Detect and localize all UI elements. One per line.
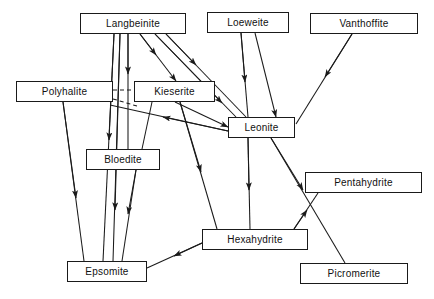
- edge-loeweite-leonite-b: [255, 33, 276, 117]
- node-bloedite[interactable]: Bloedite: [86, 149, 160, 170]
- edge-langbeinite-epsomite-b-head: [115, 34, 120, 210]
- node-label: Polyhalite: [42, 86, 87, 97]
- edge-kieserite-leonite: [175, 102, 228, 127]
- edge-leonite-picromerite-head: [271, 138, 303, 190]
- edge-kieserite-bloedite: [142, 102, 152, 149]
- node-kieserite[interactable]: Kieserite: [134, 81, 215, 102]
- node-hexahydrite[interactable]: Hexahydrite: [202, 229, 308, 250]
- edge-vanthoffite-leonite-head: [325, 34, 352, 77]
- node-label: Leonite: [244, 122, 278, 133]
- node-label: Loeweite: [227, 17, 269, 28]
- node-langbeinite[interactable]: Langbeinite: [80, 13, 186, 34]
- edge-hexahydrite-epsomite-head: [174, 243, 202, 256]
- node-loeweite[interactable]: Loeweite: [207, 12, 289, 33]
- edge-loeweite-leonite-a-head: [241, 33, 245, 82]
- node-epsomite[interactable]: Epsomite: [67, 261, 147, 282]
- node-pentahydrite[interactable]: Pentahydrite: [305, 172, 422, 193]
- edge-polyhalite-epsomite-head: [63, 102, 76, 198]
- edge-leonite-hexahydrite-head: [248, 138, 249, 190]
- node-label: Hexahydrite: [227, 234, 283, 245]
- edge-layer: [0, 0, 434, 299]
- phase-relation-diagram: Langbeinite Loeweite Vanthoffite Polyhal…: [0, 0, 434, 299]
- node-label: Kieserite: [154, 86, 195, 97]
- edge-bloedite-epsomite-head: [128, 170, 136, 214]
- node-label: Langbeinite: [106, 18, 160, 29]
- node-polyhalite[interactable]: Polyhalite: [16, 81, 113, 102]
- node-picromerite[interactable]: Picromerite: [300, 263, 408, 284]
- edge-hexahydrite-pentahydrite-head: [294, 210, 307, 229]
- edge-langbeinite-kieserite-mid: [140, 34, 156, 55]
- edge-leonite-kieserite-head: [163, 117, 228, 131]
- node-label: Picromerite: [328, 268, 381, 279]
- node-label: Epsomite: [85, 266, 128, 277]
- node-vanthoffite[interactable]: Vanthoffite: [310, 13, 418, 34]
- node-label: Bloedite: [104, 154, 142, 165]
- node-label: Vanthoffite: [339, 18, 388, 29]
- node-label: Pentahydrite: [334, 177, 393, 188]
- node-leonite[interactable]: Leonite: [228, 117, 295, 138]
